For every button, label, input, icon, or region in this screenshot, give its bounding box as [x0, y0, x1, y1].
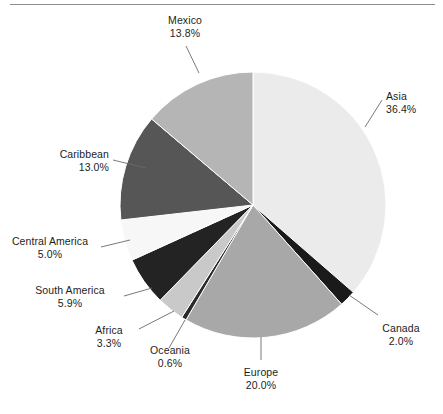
pie-label-caribbean: Caribbean 13.0% [13, 148, 109, 173]
leader-line-canada [349, 295, 378, 315]
pie-label-canada-value: 2.0% [370, 335, 432, 348]
pie-label-caribbean-name: Caribbean [13, 148, 109, 161]
pie-label-south-america-value: 5.9% [22, 297, 118, 310]
pie-label-mexico-name: Mexico [130, 14, 240, 27]
pie-label-africa: Africa 3.3% [83, 324, 135, 349]
pie-label-africa-name: Africa [83, 324, 135, 337]
pie-label-caribbean-value: 13.0% [13, 161, 109, 174]
pie-label-europe: Europe 20.0% [231, 366, 291, 391]
leader-line-africa [139, 311, 174, 329]
pie-label-mexico: Mexico 13.8% [130, 14, 240, 39]
pie-label-canada-name: Canada [370, 322, 432, 335]
pie-label-south-america-name: South America [22, 284, 118, 297]
pie-label-oceania: Oceania 0.6% [140, 344, 200, 369]
pie-label-oceania-name: Oceania [140, 344, 200, 357]
pie-chart-graphic [0, 0, 443, 414]
pie-label-south-america: South America 5.9% [22, 284, 118, 309]
pie-slices [120, 72, 386, 338]
leader-line-south-america [124, 288, 152, 296]
pie-label-central-america-value: 5.0% [2, 248, 98, 261]
pie-label-asia: Asia 36.4% [386, 90, 442, 115]
pie-label-asia-value: 36.4% [386, 103, 442, 116]
pie-chart-figure: Mexico 13.8% Asia 36.4% Caribbean 13.0% … [0, 0, 443, 414]
pie-label-central-america-name: Central America [2, 235, 98, 248]
pie-label-europe-value: 20.0% [231, 379, 291, 392]
pie-label-mexico-value: 13.8% [130, 27, 240, 40]
pie-label-europe-name: Europe [231, 366, 291, 379]
pie-label-asia-name: Asia [386, 90, 442, 103]
pie-label-canada: Canada 2.0% [370, 322, 432, 347]
pie-label-central-america: Central America 5.0% [2, 235, 98, 260]
pie-label-oceania-value: 0.6% [140, 357, 200, 370]
leader-line-mexico [186, 46, 199, 73]
pie-label-africa-value: 3.3% [83, 337, 135, 350]
leader-line-asia [365, 100, 382, 127]
